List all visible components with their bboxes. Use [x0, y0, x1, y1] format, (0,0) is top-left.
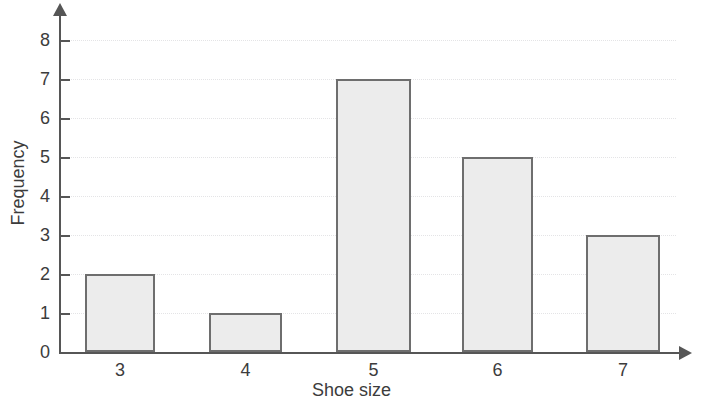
y-axis-tick-label: 7: [16, 70, 50, 88]
bar: [209, 313, 282, 352]
x-axis-arrow-icon: [679, 346, 692, 360]
x-axis-tick-label: 3: [85, 360, 155, 380]
x-axis-tick-label: 5: [336, 360, 411, 380]
y-axis-tick: [61, 196, 70, 198]
y-axis-tick-label: 1: [16, 304, 50, 322]
plot-area: 012345678 34567 Frequency Shoe size: [0, 0, 703, 406]
y-axis-tick: [61, 313, 70, 315]
gridline: [59, 40, 676, 41]
y-axis-tick: [61, 79, 70, 81]
y-axis-title: Frequency: [8, 103, 28, 263]
y-axis-tick-label: 8: [16, 31, 50, 49]
y-axis-tick: [61, 274, 70, 276]
y-axis-tick: [61, 235, 70, 237]
y-axis-tick-label: 0: [16, 343, 50, 361]
x-axis-tick-label: 6: [462, 360, 533, 380]
y-axis-tick: [61, 118, 70, 120]
x-axis-tick-label: 4: [209, 360, 282, 380]
bar: [85, 274, 155, 352]
y-axis-tick-label-wrap: 1: [10, 304, 50, 322]
y-axis-tick-label-wrap: 7: [10, 70, 50, 88]
y-axis-tick-label-wrap: 0: [10, 343, 50, 361]
x-axis-title: Shoe size: [0, 380, 703, 400]
bar-chart: 012345678 34567 Frequency Shoe size: [0, 0, 703, 406]
bar: [586, 235, 660, 352]
y-axis-tick-label: 2: [16, 265, 50, 283]
y-axis-tick-label-wrap: 2: [10, 265, 50, 283]
bar: [336, 79, 411, 352]
y-axis-tick: [61, 40, 70, 42]
y-axis-tick: [61, 157, 70, 159]
y-axis-arrow-icon: [53, 3, 67, 16]
x-axis-line: [59, 352, 683, 354]
x-axis-tick-label: 7: [586, 360, 660, 380]
bar: [462, 157, 533, 352]
y-axis-tick-label-wrap: 8: [10, 31, 50, 49]
y-axis-line: [59, 14, 61, 352]
